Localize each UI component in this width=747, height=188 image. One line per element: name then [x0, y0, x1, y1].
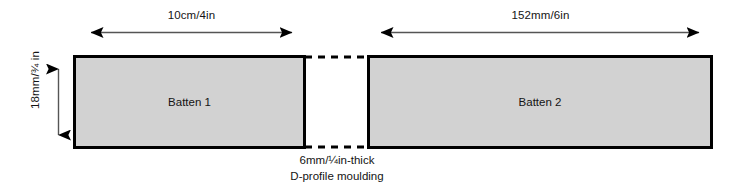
- dimension-label-height: 18mm/¾ in: [29, 35, 41, 125]
- dimension-label-width-right: 152mm/6in: [368, 9, 713, 21]
- dimension-label-width-left: 10cm/4in: [0, 9, 383, 21]
- moulding-caption: 6mm/¼in-thick D-profile moulding: [217, 152, 457, 184]
- moulding-caption-line-1: 6mm/¼in-thick: [217, 152, 457, 168]
- batten-1-label: Batten 1: [74, 96, 305, 108]
- batten-2-label: Batten 2: [368, 96, 712, 108]
- moulding-caption-line-2: D-profile moulding: [217, 168, 457, 184]
- technical-diagram: 10cm/4in 152mm/6in 18mm/¾ in Batten 1 Ba…: [0, 0, 747, 188]
